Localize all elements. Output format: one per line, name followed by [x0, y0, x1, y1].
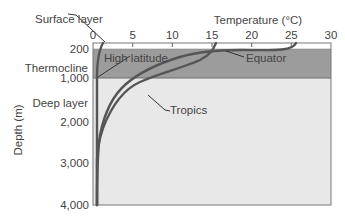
x-axis-title: Temperature (°C): [214, 14, 302, 26]
svg-text:2,000: 2,000: [60, 116, 89, 128]
y-axis-title: Depth (m): [12, 104, 24, 155]
label-surface-layer: Surface layer: [35, 13, 103, 25]
x-tick-labels: 0 5 10 15 20 25 30: [90, 29, 338, 41]
svg-text:5: 5: [129, 29, 135, 41]
label-tropics: Tropics: [170, 104, 208, 116]
svg-text:0: 0: [90, 29, 96, 41]
svg-text:15: 15: [206, 29, 219, 41]
label-equator: Equator: [246, 52, 286, 64]
label-deep-layer: Deep layer: [32, 97, 88, 109]
deep-layer-band: [93, 78, 331, 205]
svg-text:25: 25: [285, 29, 298, 41]
ocean-temperature-chart: 0 5 10 15 20 25 30 Temperature (°C) 200 …: [0, 0, 345, 217]
svg-text:20: 20: [245, 29, 258, 41]
svg-text:200: 200: [70, 43, 89, 55]
label-thermocline: Thermocline: [25, 62, 88, 74]
svg-text:30: 30: [325, 29, 338, 41]
label-high-latitude: High latitude: [104, 52, 168, 64]
svg-text:10: 10: [166, 29, 179, 41]
svg-text:3,000: 3,000: [60, 157, 89, 169]
svg-text:4,000: 4,000: [60, 199, 89, 211]
